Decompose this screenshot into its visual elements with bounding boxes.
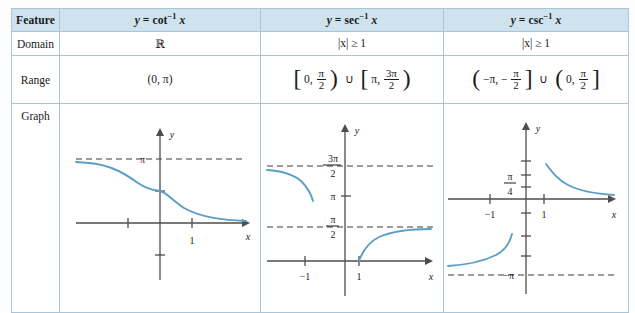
domain-cot-value: ℝ <box>60 32 261 56</box>
range-sec-a2: π, <box>371 73 380 86</box>
range-csc-union: ∪ <box>539 73 548 87</box>
csc-label-pi-4: π 4 <box>504 171 516 197</box>
cot-axis-y-label: y <box>169 129 175 140</box>
range-sec-a1: 0, <box>304 73 313 86</box>
range-sec-open1: [ <box>293 70 301 87</box>
range-sec-frac2-den: 2 <box>384 80 399 91</box>
header-csc-inverse: y = csc−1 x <box>444 9 629 32</box>
csc-y-arrow <box>522 122 530 130</box>
csc-header-fn: csc <box>528 14 543 26</box>
range-sec-close2: ) <box>403 70 411 87</box>
domain-sec-abs: |x| ≥ 1 <box>338 37 366 50</box>
table-body: Domain ℝ |x| ≥ 1 |x| ≥ 1 Range (0, π) <box>12 32 629 313</box>
csc-header-y: y <box>511 14 516 26</box>
range-csc-close2: ] <box>592 70 600 87</box>
table-header: Feature y = cot−1 x y = sec−1 x <box>12 9 629 32</box>
domain-csc-abs: |x| ≥ 1 <box>522 37 550 50</box>
sec-axis-y-label: y <box>354 125 360 136</box>
range-sec-close1: ) <box>330 70 338 87</box>
csc-x-arrow <box>608 195 616 203</box>
header-cot-inverse: y = cot−1 x <box>60 9 261 32</box>
sec-label-pi-2-den: 2 <box>331 229 336 240</box>
graph-cot-inverse: π 1 x y <box>60 104 258 304</box>
domain-sec-value: |x| ≥ 1 <box>261 32 444 56</box>
cot-label-pi: π <box>140 154 145 165</box>
range-csc-a2: 0, <box>566 73 575 86</box>
sec-label-x1: 1 <box>357 271 362 282</box>
cot-header-y: y <box>135 14 140 26</box>
sec-label-xneg1: −1 <box>300 271 311 282</box>
range-csc-frac1: π 2 <box>511 68 521 92</box>
header-sec-inverse: y = sec−1 x <box>261 9 444 32</box>
sec-x-arrow <box>425 257 433 265</box>
row-label-domain: Domain <box>12 32 60 56</box>
sec-label-pi: π <box>330 191 335 202</box>
row-domain: Domain ℝ |x| ≥ 1 |x| ≥ 1 <box>12 32 629 56</box>
cot-header-arg: x <box>180 14 186 26</box>
range-csc-value: ( −π, − π 2 ] ∪ ( 0, π 2 <box>444 56 629 104</box>
range-sec-frac1-den: 2 <box>317 80 327 91</box>
cot-curve <box>76 162 246 221</box>
csc-label-neg-pi: −π <box>503 270 514 281</box>
csc-header-eq: = <box>519 14 526 26</box>
sec-header-arg: x <box>372 14 378 26</box>
range-sec-union: ∪ <box>345 73 354 87</box>
sec-curve-right <box>359 229 431 261</box>
sec-axis-x-label: x <box>428 271 434 282</box>
csc-header-arg: x <box>556 14 562 26</box>
domain-csc-value: |x| ≥ 1 <box>444 32 629 56</box>
csc-axis-y-label: y <box>535 123 541 134</box>
graph-csc-inverse: π 4 −1 1 −π x y <box>444 104 626 304</box>
domain-cot-reals: ℝ <box>155 37 165 51</box>
sec-curve-left <box>267 170 313 201</box>
csc-label-pi-4-den: 4 <box>508 186 513 197</box>
cot-y-arrow <box>156 128 164 136</box>
csc-label-x1: 1 <box>542 209 547 220</box>
range-csc-close1: ] <box>525 70 533 87</box>
range-csc-open1: ( <box>472 70 480 87</box>
range-csc-frac2: π 2 <box>579 68 589 92</box>
cot-axis-x-label: x <box>245 231 251 242</box>
graph-cell-csc: π 4 −1 1 −π x y <box>444 104 629 313</box>
header-feature: Feature <box>12 9 60 32</box>
sec-label-pi-2-num: π <box>330 214 335 225</box>
csc-label-xneg1: −1 <box>485 209 496 220</box>
range-csc-frac2-den: 2 <box>579 80 589 91</box>
cot-label-x1: 1 <box>190 235 195 246</box>
range-sec-frac2: 3π 2 <box>384 68 399 92</box>
range-sec-frac1: π 2 <box>317 68 327 92</box>
cot-header-eq: = <box>143 14 150 26</box>
csc-label-pi-4-num: π <box>507 171 512 182</box>
row-label-graph: Graph <box>12 104 60 313</box>
range-csc-frac1-den: 2 <box>511 80 521 91</box>
sec-label-3pi-2-den: 2 <box>331 168 336 179</box>
sec-header-y: y <box>327 14 332 26</box>
sec-header-eq: = <box>335 14 342 26</box>
cot-header-fn: cot <box>152 14 167 26</box>
sec-y-arrow <box>341 124 349 132</box>
inverse-trig-reference-table: Feature y = cot−1 x y = sec−1 x <box>11 8 629 313</box>
range-sec-open2: [ <box>361 70 369 87</box>
csc-curve-lower <box>448 234 512 266</box>
range-csc-open2: ( <box>555 70 563 87</box>
range-sec-value: [ 0, π 2 ) ∪ [ π, 3π 2 <box>261 56 444 104</box>
sec-label-3pi-2-num: 3π <box>328 153 338 164</box>
row-label-range: Range <box>12 56 60 104</box>
graph-cell-cot: π 1 x y <box>60 104 261 313</box>
csc-curve-upper <box>546 164 614 195</box>
range-cot-value: (0, π) <box>60 56 261 104</box>
header-row: Feature y = cot−1 x y = sec−1 x <box>12 9 629 32</box>
row-graph: Graph π 1 x <box>12 104 629 313</box>
range-csc-a1: −π, − <box>483 73 508 86</box>
sec-header-fn: sec <box>344 14 359 26</box>
csc-header-inv: −1 <box>543 12 552 21</box>
sec-header-inv: −1 <box>359 12 368 21</box>
range-cot-interval: (0, π) <box>148 73 173 86</box>
row-range: Range (0, π) [ 0, π 2 ) ∪ [ <box>12 56 629 104</box>
graph-sec-inverse: 3π 2 π π 2 −1 1 x y <box>261 104 441 304</box>
graph-cell-sec: 3π 2 π π 2 −1 1 x y <box>261 104 444 313</box>
csc-axis-x-label: x <box>611 209 617 220</box>
cot-header-inv: −1 <box>167 12 176 21</box>
